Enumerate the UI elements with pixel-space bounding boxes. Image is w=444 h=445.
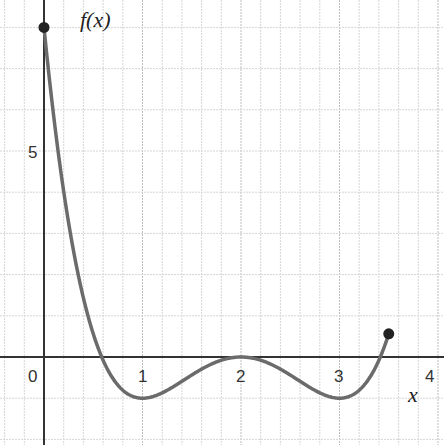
tick-label-4: 4 (425, 367, 434, 386)
tick-label-y5: 5 (28, 143, 37, 162)
y-axis-label: f(x) (80, 7, 111, 32)
tick-label-0: 0 (28, 367, 37, 386)
tick-label-2: 2 (236, 367, 245, 386)
function-curve (44, 27, 389, 398)
tick-label-3: 3 (334, 367, 343, 386)
tick-label-1: 1 (138, 367, 147, 386)
end-point (383, 328, 394, 339)
grid-lines (0, 0, 444, 445)
x-axis-label: x (407, 382, 418, 407)
function-graph: f(x) x 0 1 2 3 4 5 (0, 0, 444, 445)
start-point (39, 22, 50, 33)
